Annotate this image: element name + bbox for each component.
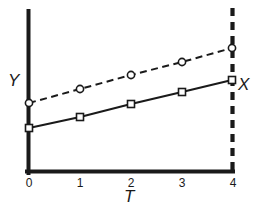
data-point-marker — [76, 85, 83, 92]
x-axis-title: T — [124, 188, 134, 205]
data-point-marker — [25, 99, 32, 106]
y-axis-label: Y — [8, 72, 19, 89]
data-point-marker — [178, 58, 185, 65]
x-tick-label-0: 0 — [19, 177, 39, 189]
x-tick-label-1: 1 — [70, 177, 90, 189]
x-axis-end-label: X — [238, 76, 249, 93]
data-point-marker — [179, 89, 186, 96]
x-tick-label-4: 4 — [223, 177, 243, 189]
data-point-marker — [228, 44, 235, 51]
data-point-marker — [127, 71, 134, 78]
upper-dashed-series-markers — [25, 44, 235, 106]
lower-solid-series-markers — [26, 77, 236, 132]
data-point-marker — [77, 114, 84, 121]
data-point-marker — [128, 101, 135, 108]
data-point-marker — [229, 77, 236, 84]
data-point-marker — [26, 125, 33, 132]
x-tick-label-3: 3 — [172, 177, 192, 189]
x-tick-label-2: 2 — [121, 177, 141, 189]
chart-container: Y X T 0 1 2 3 4 — [0, 0, 262, 210]
